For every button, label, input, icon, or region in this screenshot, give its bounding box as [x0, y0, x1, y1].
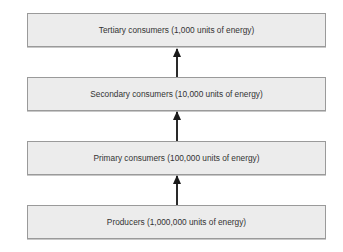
- level-secondary-consumers: Secondary consumers (10,000 units of ene…: [27, 77, 326, 111]
- arrow-up-icon: [176, 176, 178, 205]
- level-tertiary-consumers: Tertiary consumers (1,000 units of energ…: [27, 13, 326, 47]
- arrow-up-icon: [176, 112, 178, 141]
- arrow-up-icon: [176, 49, 178, 78]
- level-label: Producers (1,000,000 units of energy): [107, 217, 246, 227]
- level-label: Tertiary consumers (1,000 units of energ…: [99, 25, 254, 35]
- level-label: Secondary consumers (10,000 units of ene…: [90, 89, 263, 99]
- level-producers: Producers (1,000,000 units of energy): [27, 205, 326, 239]
- level-label: Primary consumers (100,000 units of ener…: [93, 153, 259, 163]
- level-primary-consumers: Primary consumers (100,000 units of ener…: [27, 141, 326, 175]
